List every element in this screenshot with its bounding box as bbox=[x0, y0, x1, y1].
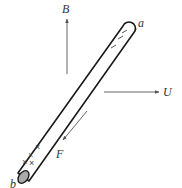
magnetic-field-label: B bbox=[62, 2, 70, 16]
force-label: F bbox=[55, 147, 64, 161]
rod-outline bbox=[18, 22, 135, 181]
cross-mark: × bbox=[22, 157, 27, 167]
rod-end-label-a: a bbox=[138, 16, 144, 30]
velocity-label: U bbox=[163, 85, 173, 99]
cross-mark: × bbox=[35, 142, 40, 152]
conducting-rod: × × × × bbox=[16, 22, 136, 185]
cross-mark: × bbox=[29, 158, 34, 168]
rod-end-label-b: b bbox=[10, 177, 16, 188]
velocity-vector: U bbox=[104, 85, 173, 99]
rod-in-magnetic-field-diagram: × × × × a b B U F bbox=[0, 0, 182, 188]
magnetic-field-vector: B bbox=[62, 2, 70, 74]
